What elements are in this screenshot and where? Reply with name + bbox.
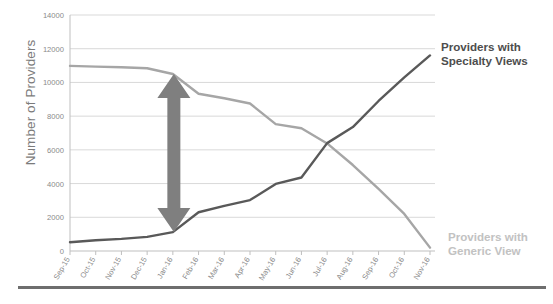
x-tick-label: May-16 [257, 256, 277, 282]
x-tick-label: Nov-16 [412, 256, 432, 282]
x-tick-label: Jul-16 [311, 256, 329, 278]
x-tick-label: Jan-16 [155, 256, 174, 281]
legend-generic-line1: Providers with [448, 230, 528, 244]
y-tick-label: 4000 [47, 180, 64, 189]
gap-double-arrow-annotation [157, 74, 190, 232]
x-tick-label: Apr-16 [233, 256, 252, 280]
series-line [70, 55, 430, 242]
x-tick-label: Sep-16 [360, 256, 380, 282]
y-tick-label: 6000 [47, 146, 64, 155]
series-line [70, 66, 430, 248]
legend-generic-line2: Generic View [448, 244, 528, 258]
bottom-divider-rule [18, 286, 546, 289]
x-tick-label: Oct-15 [78, 256, 97, 280]
x-tick-label: Mar-16 [206, 256, 226, 281]
y-tick-label: 0 [60, 247, 64, 256]
y-tick-label: 8000 [47, 112, 64, 121]
legend-generic-view: Providers with Generic View [448, 230, 528, 258]
y-tick-label: 12000 [43, 45, 64, 54]
legend-specialty-views: Providers with Specialty Views [441, 40, 528, 68]
x-tick-label: Oct-16 [387, 256, 406, 280]
x-tick-label: Dec-15 [129, 256, 149, 282]
x-tick-label: Feb-16 [180, 256, 200, 281]
legend-specialty-line2: Specialty Views [441, 54, 528, 68]
x-tick-label: Nov-15 [103, 256, 123, 282]
legend-specialty-line1: Providers with [441, 40, 528, 54]
x-tick-label: Sep-15 [52, 256, 72, 282]
y-tick-label: 10000 [43, 78, 64, 87]
x-tick-label: Jun-16 [284, 256, 303, 281]
y-tick-label: 2000 [47, 213, 64, 222]
x-tick-label: Aug-16 [335, 256, 355, 282]
chart-container: Number of Providers 02000400060008000100… [0, 0, 553, 304]
y-tick-label: 14000 [43, 11, 64, 20]
